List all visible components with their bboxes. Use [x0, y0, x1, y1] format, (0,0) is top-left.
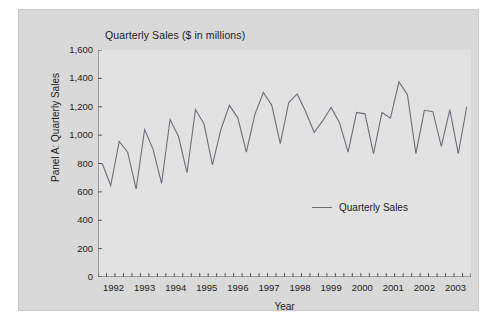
legend-label: Quarterly Sales	[339, 202, 408, 213]
legend-line-swatch	[312, 207, 332, 208]
x-axis-tick-labels: 1992199319941995199619971998199920002001…	[19, 283, 480, 299]
plot-area	[98, 50, 471, 277]
y-tick-label: 800	[51, 159, 93, 169]
series-plot	[98, 50, 471, 277]
chart-figure: Quarterly Sales ($ in millions) Panel A:…	[0, 0, 496, 329]
y-tick-label: 1,000	[51, 130, 93, 140]
y-tick-label: 600	[51, 187, 93, 197]
x-axis-ticks	[98, 273, 471, 277]
y-tick-label: 1,200	[51, 102, 93, 112]
quarterly-sales-line	[102, 82, 467, 189]
chart-legend: Quarterly Sales	[312, 202, 408, 213]
chart-panel: Quarterly Sales ($ in millions) Panel A:…	[18, 9, 479, 311]
y-tick-label: 200	[51, 244, 93, 254]
y-tick-label: 400	[51, 215, 93, 225]
y-axis-ticks	[98, 50, 102, 277]
y-tick-label: 1,600	[51, 45, 93, 55]
y-tick-label: 0	[51, 272, 93, 282]
chart-title: Quarterly Sales ($ in millions)	[105, 29, 245, 41]
x-axis-title: Year	[98, 301, 471, 312]
y-axis-tick-labels: 1,6001,4001,2001,0008006004002000	[45, 10, 93, 312]
y-tick-label: 1,400	[51, 73, 93, 83]
x-tick-label: 2003	[435, 283, 475, 293]
